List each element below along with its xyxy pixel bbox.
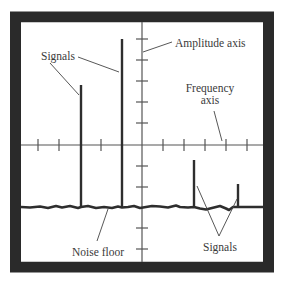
label-frequency-axis-line2: axis — [201, 94, 220, 106]
label-signals-top: Signals — [41, 50, 75, 63]
label-noise-floor: Noise floor — [72, 246, 124, 258]
label-amplitude-axis: Amplitude axis — [175, 37, 246, 50]
label-signals-bottom: Signals — [203, 241, 237, 254]
spectrum-diagram: Signals Amplitude axis Frequency axis No… — [0, 0, 284, 287]
